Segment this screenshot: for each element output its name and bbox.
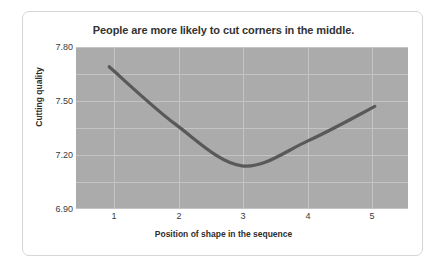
chart-card: People are more likely to cut corners in… — [22, 11, 423, 256]
y-tick-label: 7.20 — [33, 150, 73, 160]
chart-title: People are more likely to cut corners in… — [23, 24, 424, 36]
y-tick-label: 7.50 — [33, 96, 73, 106]
series-line — [76, 47, 408, 209]
y-tick-label: 6.90 — [33, 204, 73, 214]
x-axis-label: Position of shape in the sequence — [23, 229, 424, 239]
x-axis-tick-labels: 1 2 3 4 5 — [76, 211, 408, 225]
x-tick-label: 5 — [357, 211, 387, 221]
y-axis-tick-labels: 6.90 7.20 7.50 7.80 — [29, 47, 73, 209]
x-tick-label: 1 — [99, 211, 129, 221]
x-tick-label: 4 — [293, 211, 323, 221]
y-tick-label: 7.80 — [33, 42, 73, 52]
x-tick-label: 2 — [164, 211, 194, 221]
x-tick-label: 3 — [228, 211, 258, 221]
plot-area — [76, 47, 408, 209]
